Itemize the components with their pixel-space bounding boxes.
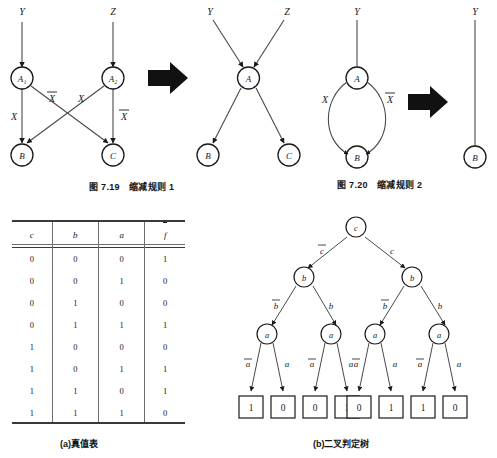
leaf-node-7: 1 [411,396,435,418]
node-B-label: B [354,153,360,163]
reduction-rule-1-after: Y Z A B C [197,6,300,166]
tree-edge-label-a-not-1-text: a [246,359,251,369]
tree-edge-label-a-not-1: a [244,359,252,369]
table-rule-bottom [12,422,185,424]
edge-label-A2-C-text: X [120,111,128,122]
tree-edge-label-a-not-4-text: a [418,359,423,369]
edge-a1-left [251,343,261,391]
edge-A-to-B [213,88,241,143]
tree-edge-label-b-1: b [329,301,334,311]
table-row: 1 1 0 1 [12,380,185,402]
edge-a4-left [423,343,433,391]
edge-a1-right [273,343,283,391]
tree-node-b-1-label: b [302,273,306,283]
tree-edge-label-a-1: a [285,359,290,369]
cell-f: 1 [145,380,185,402]
cell-a: 0 [98,292,144,314]
leaf-node-1: 1 [239,396,263,418]
cell-c: 0 [12,314,52,336]
cell-c: 0 [12,248,52,271]
column-header-c-text: c [30,230,34,240]
edge-a2-left [315,343,325,391]
leaf-value: 0 [453,403,458,413]
leaf-node-5: 0 [347,396,371,418]
tree-edge-label-b-not-2: b [381,300,389,311]
caption-figure-7-19: 图 7.19 缩减规则 1 [89,180,174,193]
leaf-value: 0 [313,403,318,413]
tree-edge-label-b-not-2-text: b [383,301,388,311]
cell-a: 0 [98,380,144,402]
table-row: 0 0 1 0 [12,270,185,292]
leaf-value: 0 [357,403,362,413]
tree-edge-label-a-not-3: a [352,359,360,369]
caption-decision-tree: (b)二叉判定树 [313,437,370,450]
edge-label-A2-B: X [77,93,85,104]
tree-edge-label-c: c [390,246,394,256]
leaf-node-6: 1 [379,396,403,418]
tree-node-a-1-label: a [265,330,269,340]
tree-edge-label-a-3: a [393,359,398,369]
cell-a: 0 [98,248,144,271]
table-row: 0 1 1 1 [12,314,185,336]
tree-node-b-2-label: b [410,273,414,283]
cell-a: 1 [98,358,144,380]
tree-edge-label-a-not-3-text: a [354,359,359,369]
node-A2-label: A₂ [108,74,118,84]
cell-b: 1 [52,380,98,402]
input-label-Y: Y [207,6,214,17]
reduction-rule-1-before: Y Z A₁ A₂ B C X X X [10,6,129,166]
tree-node-root-label: c [354,223,358,233]
transform-arrow-1 [148,62,188,94]
edge-a4-right [445,343,455,391]
cell-b: 1 [52,314,98,336]
leaf-node-8: 0 [443,396,467,418]
tree-edge-label-b-not-1: b [272,300,280,311]
edge-A-to-B-left [328,82,348,154]
input-label-Y: Y [19,6,26,17]
cell-b: 0 [52,358,98,380]
edge-a3-left [359,343,369,391]
cell-c: 0 [12,270,52,292]
edge-label-right-text: X [386,94,394,105]
edge-Y-to-A [213,20,243,67]
cell-f: 0 [145,336,185,358]
edge-A2-to-B [27,86,104,143]
cell-b: 1 [52,402,98,424]
cell-a: 1 [98,314,144,336]
cell-f: 1 [145,248,185,271]
edge-label-A1-C-text: X [48,93,56,104]
leaf-node-2: 0 [271,396,295,418]
cell-f: 1 [145,314,185,336]
cell-b: 0 [52,270,98,292]
tree-node-a-4-label: a [437,330,441,340]
input-label-Y: Y [472,6,479,17]
caption-truth-table: (a)真值表 [60,437,98,450]
cell-c: 1 [12,380,52,402]
tree-node-a-3-label: a [373,330,377,340]
leaf-value: 1 [389,403,394,413]
cell-f: 0 [145,292,185,314]
input-label-Z: Z [110,6,116,17]
reduction-rule-2-before: Y A B X X [321,6,395,168]
node-C-label: C [286,151,293,161]
cell-b: 1 [52,292,98,314]
table-row: 1 0 0 0 [12,336,185,358]
tree-edge-label-b-not-1-text: b [274,301,279,311]
decision-tree-canvas: c b b a a a a c c b b b b [200,212,497,432]
cell-c: 1 [12,358,52,380]
table-rule-top [12,220,185,222]
edge-root-left [308,237,347,268]
caption-figure-7-20: 图 7.20 缩减规则 2 [337,178,422,191]
edge-root-right [365,237,405,268]
edge-A1-to-C [31,86,108,143]
edge-label-left: X [321,94,329,105]
truth-table-body: 0 0 0 1 0 0 1 0 0 1 0 0 0 [12,248,185,425]
reduction-rule-2-after: Y B [464,6,486,168]
table-row: 1 0 1 1 [12,358,185,380]
table-rule-mid [12,244,185,245]
transform-arrow-2 [408,86,448,118]
edge-Z-to-A [254,20,284,67]
edge-label-right: X [385,93,395,105]
edge-label-A1-C: X [47,92,57,104]
edge-label-A1-B: X [10,111,18,122]
